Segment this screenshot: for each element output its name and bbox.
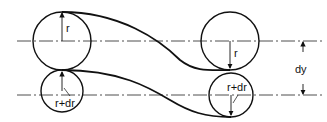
- right-bottom-radius-label: r+dr: [227, 81, 247, 93]
- right-top-radius-label: r: [234, 47, 238, 59]
- lower-belt-curve: [62, 70, 231, 117]
- roller-belt-diagram: r r+dr r r+dr dy: [0, 0, 327, 122]
- left-top-radius-label: r: [66, 22, 70, 34]
- right-bottom-leader: [233, 95, 238, 103]
- left-bottom-radius-label: r+dr: [55, 97, 75, 109]
- dy-label: dy: [295, 63, 307, 75]
